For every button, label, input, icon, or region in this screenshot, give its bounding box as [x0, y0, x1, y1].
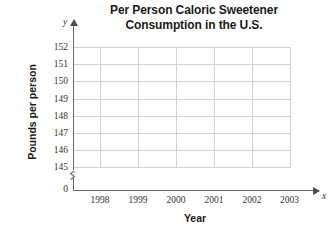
x-tick-label: 2003 — [268, 195, 312, 205]
gridline-vertical — [176, 47, 177, 168]
chart-title-line-2: Consumption in the U.S. — [78, 18, 310, 33]
gridline-vertical — [290, 47, 291, 168]
y-axis-variable-label: y — [63, 17, 67, 27]
axis-break-icon — [68, 168, 80, 180]
y-tick-label: 145 — [40, 162, 68, 172]
x-axis-line — [73, 190, 316, 191]
plot-area — [74, 47, 290, 168]
gridline-vertical — [252, 47, 253, 168]
gridline-vertical — [214, 47, 215, 168]
x-axis-arrow-icon — [313, 187, 320, 195]
origin-tick-label: 0 — [40, 184, 68, 194]
x-axis-title: Year — [90, 212, 300, 224]
y-tick-label: 149 — [40, 94, 68, 104]
chart-title-line-1: Per Person Caloric Sweetener — [78, 3, 310, 18]
y-tick-label: 148 — [40, 111, 68, 121]
y-tick-label: 147 — [40, 128, 68, 138]
y-tick-label: 146 — [40, 145, 68, 155]
gridline-horizontal — [74, 133, 290, 134]
gridline-horizontal — [74, 81, 290, 82]
gridline-horizontal — [74, 47, 290, 48]
y-axis-title: Pounds per person — [26, 37, 38, 187]
y-tick-label: 151 — [40, 59, 68, 69]
y-tick-label: 150 — [40, 76, 68, 86]
gridline-vertical — [100, 47, 101, 168]
gridline-horizontal — [74, 116, 290, 117]
y-axis-arrow-icon — [70, 19, 78, 26]
chart-figure: Per Person Caloric Sweetener Consumption… — [0, 0, 335, 234]
chart-title: Per Person Caloric Sweetener Consumption… — [78, 3, 310, 32]
y-axis-line — [73, 25, 74, 170]
gridline-horizontal — [74, 150, 290, 151]
y-tick-label: 152 — [40, 42, 68, 52]
gridline-horizontal — [74, 167, 290, 168]
gridline-horizontal — [74, 64, 290, 65]
gridline-horizontal — [74, 99, 290, 100]
x-axis-variable-label: x — [322, 191, 326, 201]
gridline-vertical — [138, 47, 139, 168]
